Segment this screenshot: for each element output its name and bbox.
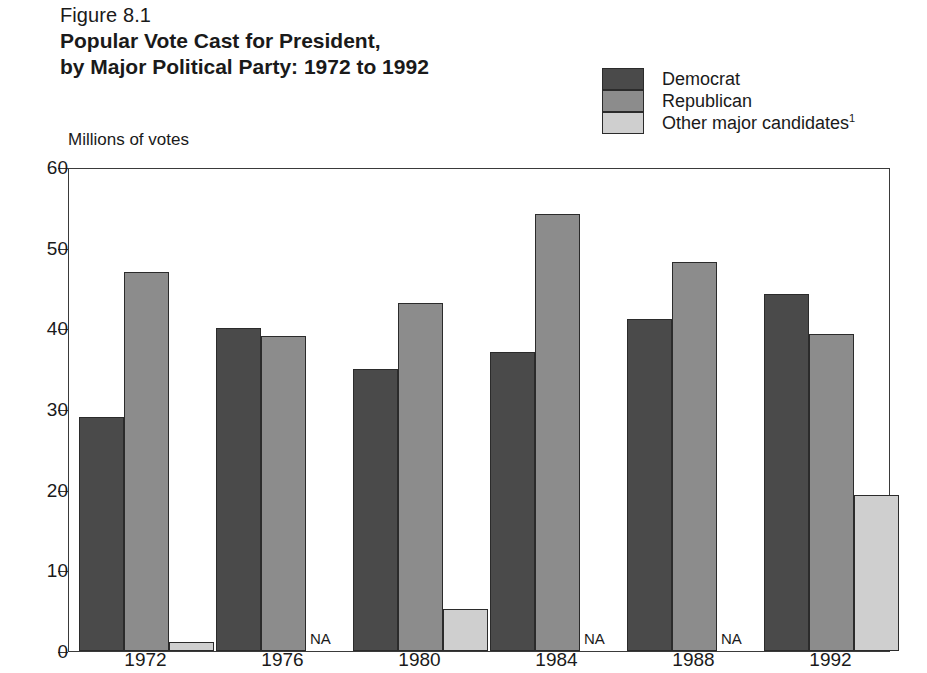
x-axis-tick-label: 1976: [261, 649, 303, 671]
y-axis-tick-label: 30: [22, 400, 68, 419]
figure-title: Popular Vote Cast for President, by Majo…: [60, 28, 429, 80]
bar: [854, 495, 899, 651]
legend-item: Republican: [602, 90, 855, 112]
y-axis-tick-label: 40: [22, 319, 68, 338]
y-axis-tick-label: 10: [22, 561, 68, 580]
bars-layer: NANANA: [69, 169, 889, 651]
na-label: NA: [310, 630, 331, 647]
chart-legend: DemocratRepublicanOther major candidates…: [602, 68, 855, 134]
bar: [809, 334, 854, 651]
legend-swatch-republican: [602, 90, 644, 112]
bar: [490, 352, 535, 651]
y-axis-tick-label: 20: [22, 481, 68, 500]
figure-number: Figure 8.1: [60, 4, 151, 27]
y-axis-tick-label: 60: [22, 158, 68, 177]
bar: [398, 303, 443, 651]
legend-item: Other major candidates1: [602, 112, 855, 134]
legend-item-label: Other major candidates1: [662, 112, 855, 134]
na-label: NA: [584, 630, 605, 647]
bar: [169, 642, 214, 651]
x-axis-tick-label: 1984: [535, 649, 577, 671]
x-axis-tick-label: 1972: [124, 649, 166, 671]
bar: [764, 294, 809, 651]
y-axis-tick-label: 50: [22, 239, 68, 258]
figure-title-line1: Popular Vote Cast for President,: [60, 29, 381, 52]
bar: [124, 272, 169, 651]
y-axis-tick-label: 0: [22, 642, 68, 661]
bar: [261, 336, 306, 651]
legend-item-label: Republican: [662, 90, 752, 112]
bar: [216, 328, 261, 651]
bar: [672, 262, 717, 651]
legend-footnote-marker: 1: [849, 112, 855, 124]
bar: [79, 417, 124, 651]
x-axis-tick-label: 1980: [398, 649, 440, 671]
figure-title-line2: by Major Political Party: 1972 to 1992: [60, 54, 429, 80]
y-axis-caption: Millions of votes: [68, 130, 189, 150]
legend-swatch-democrat: [602, 68, 644, 90]
bar: [535, 214, 580, 651]
plot-area: NANANA: [68, 168, 890, 652]
y-axis: 0102030405060: [0, 168, 68, 652]
x-axis-tick-label: 1992: [809, 649, 851, 671]
legend-item-label: Democrat: [662, 68, 740, 90]
na-label: NA: [721, 630, 742, 647]
legend-swatch-other: [602, 112, 644, 134]
figure-root: Figure 8.1 Popular Vote Cast for Preside…: [0, 0, 927, 673]
bar: [353, 369, 398, 651]
bar: [443, 609, 488, 651]
bar: [627, 319, 672, 651]
x-axis-tick-label: 1988: [672, 649, 714, 671]
legend-item: Democrat: [602, 68, 855, 90]
